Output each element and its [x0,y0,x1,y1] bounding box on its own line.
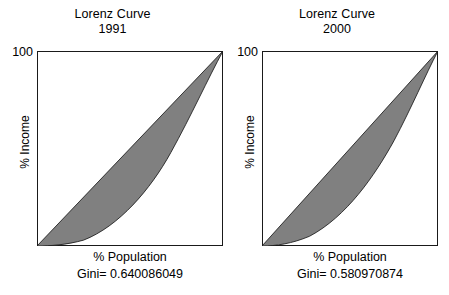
chart-title-line-1: Lorenz Curve [225,7,449,22]
chart-panel-1991: Lorenz Curve 1991 100 % Income % Populat… [0,0,225,295]
x-axis-title: % Population [262,250,438,265]
chart-title-line-2: 1991 [0,22,225,37]
y-axis-title: % Income [243,112,257,172]
y-axis-tick-label-100: 100 [2,46,33,59]
chart-title-line-2: 2000 [225,22,449,37]
gini-coefficient-label: Gini= 0.580970874 [252,267,448,282]
lorenz-curve-svg-1991 [37,51,223,246]
chart-panel-2000: Lorenz Curve 2000 100 % Income % Populat… [225,0,449,295]
line-of-equality [262,51,438,246]
y-axis-title: % Income [18,112,32,172]
chart-title-1991: Lorenz Curve 1991 [0,7,225,37]
plot-area-1991 [37,51,223,246]
lorenz-curve-svg-2000 [262,51,438,246]
chart-title-2000: Lorenz Curve 2000 [225,7,449,37]
chart-title-line-1: Lorenz Curve [0,7,225,22]
plot-area-2000 [262,51,438,246]
x-axis-title: % Population [37,250,223,265]
gini-coefficient-label: Gini= 0.640086049 [30,267,230,282]
y-axis-tick-label-100: 100 [227,46,258,59]
line-of-equality [37,51,223,246]
